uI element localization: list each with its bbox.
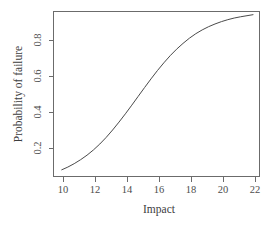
x-tick-label: 14 <box>122 184 133 195</box>
x-tick-label: 12 <box>90 184 101 195</box>
logistic-curve-chart: 10 12 14 16 18 20 22 0.2 0.4 0.6 0.8 Imp… <box>0 0 274 228</box>
x-tick-label: 22 <box>250 184 261 195</box>
y-tick-label: 0.4 <box>32 105 43 119</box>
y-tick-labels: 0.2 0.4 0.6 0.8 <box>32 33 43 154</box>
y-tick-label: 0.8 <box>32 33 43 46</box>
x-tick-label: 18 <box>186 184 197 195</box>
x-axis-ticks <box>64 177 256 182</box>
x-tick-label: 16 <box>154 184 165 195</box>
x-tick-label: 10 <box>58 184 69 195</box>
x-tick-labels: 10 12 14 16 18 20 22 <box>58 184 261 195</box>
probability-curve <box>61 15 253 170</box>
y-axis-title: Probability of failure <box>12 46 25 142</box>
y-tick-label: 0.6 <box>32 69 43 82</box>
y-axis-ticks <box>49 41 54 149</box>
y-tick-label: 0.2 <box>32 141 43 154</box>
x-axis-title: Impact <box>143 203 176 216</box>
chart-page: 10 12 14 16 18 20 22 0.2 0.4 0.6 0.8 Imp… <box>0 0 274 228</box>
x-tick-label: 20 <box>218 184 229 195</box>
plot-frame <box>54 12 260 177</box>
